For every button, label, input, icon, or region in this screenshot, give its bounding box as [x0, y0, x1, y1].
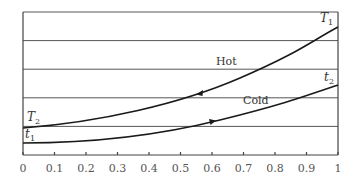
svg-text:2: 2 [329, 77, 334, 86]
hot-curve [23, 27, 338, 128]
x-tick-label: 0.3 [109, 162, 127, 175]
x-tick-labels: 0 0.1 0.2 0.3 0.4 0.5 0.6 0.7 0.8 0.9 1 [20, 162, 342, 175]
hot-flow-arrow-icon [196, 90, 203, 96]
svg-text:2: 2 [35, 117, 40, 126]
label-T1: T 1 [320, 11, 333, 27]
cold-label: Cold [243, 94, 269, 107]
x-tick-label: 0.7 [235, 162, 253, 175]
x-tick-label: 0.2 [77, 162, 95, 175]
x-tick-label: 1 [335, 162, 342, 175]
svg-text:1: 1 [328, 18, 333, 27]
x-tick-label: 0.1 [46, 162, 64, 175]
cold-curve [23, 85, 338, 143]
x-tick-label: 0.9 [298, 162, 316, 175]
x-tick-label: 0.5 [172, 162, 190, 175]
hot-label: Hot [216, 55, 237, 68]
label-t1: t 1 [25, 127, 35, 143]
gridlines [23, 12, 338, 126]
label-T2: T 2 [27, 110, 40, 126]
x-tick-label: 0.8 [266, 162, 284, 175]
temperature-profile-chart: 0 0.1 0.2 0.3 0.4 0.5 0.6 0.7 0.8 0.9 1 … [0, 0, 354, 182]
x-tick-label: 0.6 [203, 162, 221, 175]
svg-text:1: 1 [30, 134, 35, 143]
x-tick-label: 0.4 [140, 162, 158, 175]
label-t2: t 2 [324, 70, 334, 86]
x-tick-label: 0 [20, 162, 27, 175]
